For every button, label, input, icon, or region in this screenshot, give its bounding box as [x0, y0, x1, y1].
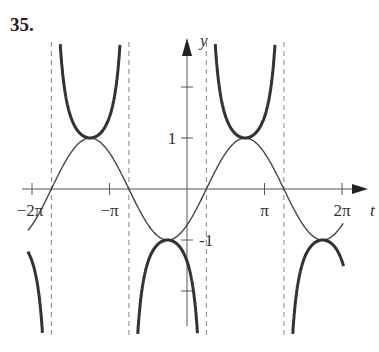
tick-label-neg2pi: −2π: [17, 201, 44, 220]
tick-label-one: 1: [168, 129, 177, 148]
tick-label-2pi: 2π: [333, 201, 351, 220]
cosecant-curve: [28, 252, 43, 333]
x-axis-label: t: [370, 201, 376, 220]
tick-label-negpi: −π: [100, 201, 119, 220]
cosecant-curve: [138, 240, 198, 334]
tick-label-pi: π: [260, 201, 269, 220]
y-axis-arrow-icon: [182, 38, 192, 56]
x-axis-arrow-icon: [352, 184, 368, 194]
cosecant-curve: [215, 44, 275, 138]
chart-plot: −2π−ππ2π1-1ty: [0, 0, 379, 352]
cosecant-curve: [293, 240, 344, 334]
tick-label-negone: -1: [199, 231, 213, 250]
cosecant-curve: [60, 44, 120, 138]
y-axis-label: y: [198, 31, 208, 50]
